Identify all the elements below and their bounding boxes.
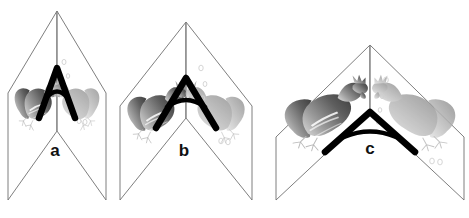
panel-b-label: b [179,141,189,160]
panel-c-label: c [365,139,374,158]
panel-c: c [276,45,464,200]
panel-a-label: a [50,141,60,160]
figure-container: a [0,0,469,218]
panel-b: b [120,22,252,200]
mirror-book-angle-diagram: a [0,0,469,218]
panel-a: a [8,11,106,200]
